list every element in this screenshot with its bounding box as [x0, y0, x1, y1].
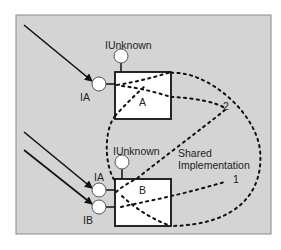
path-number-2-label: 2: [223, 101, 229, 112]
component-a-label: A: [139, 97, 146, 108]
b-ib-label: IB: [83, 215, 93, 226]
b-iunknown-interface-lollipop: [115, 155, 129, 169]
a-iunknown-interface-lollipop: [114, 49, 128, 63]
b-ia-label: IA: [94, 172, 104, 183]
a-iunknown-label: IUnknown: [105, 40, 152, 51]
b-ia-interface-lollipop: [92, 183, 106, 197]
a-ia-interface-lollipop: [92, 77, 106, 91]
diagram-canvas: [0, 0, 281, 250]
b-ib-interface-lollipop: [92, 200, 106, 214]
a-ia-label: IA: [80, 92, 90, 103]
shared-implementation-label: Shared Implementation: [178, 147, 250, 171]
component-b-label: B: [139, 185, 146, 196]
path-number-1-label: 1: [233, 174, 239, 185]
b-iunknown-label: IUnknown: [113, 146, 160, 157]
com-shared-implementation-diagram: IUnknown IA A IUnknown IA IB B Shared Im…: [0, 0, 281, 250]
